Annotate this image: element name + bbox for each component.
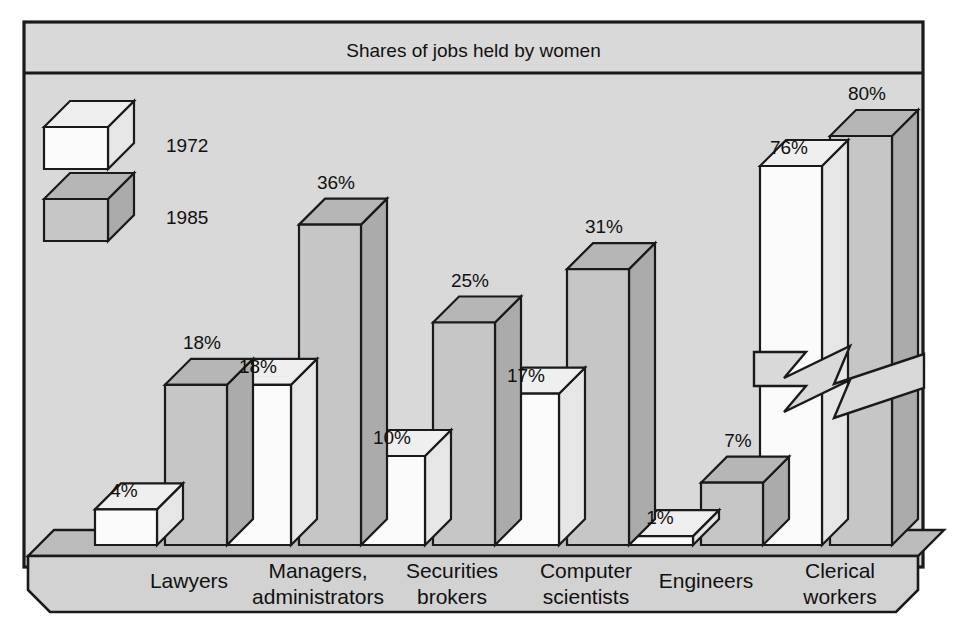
value-label-1985-1: 36%	[317, 172, 355, 193]
value-label-1972-1: 18%	[239, 356, 277, 377]
category-label-3: Computer	[540, 559, 632, 582]
legend-label-1972: 1972	[166, 135, 208, 156]
category-label-2: Securities	[406, 559, 498, 582]
value-label-1972-4: 1%	[646, 507, 674, 528]
bar-side-face	[361, 199, 387, 545]
legend-cube-front	[44, 127, 108, 169]
category-label-0: Lawyers	[150, 569, 228, 592]
bar-front-face	[631, 536, 693, 545]
category-label-1: Managers,	[268, 559, 367, 582]
category-label-5: workers	[802, 585, 877, 608]
value-label-1985-2: 25%	[451, 270, 489, 291]
bar-1985-4	[701, 457, 789, 545]
figure-root: 76%80%1%7%17%31%10%25%18%36%4%18% Lawyer…	[0, 0, 966, 641]
bar-side-face	[822, 140, 848, 545]
category-label-1: administrators	[252, 585, 384, 608]
bar-side-face	[892, 110, 918, 545]
value-label-1972-0: 4%	[110, 480, 138, 501]
chart-title-text: Shares of jobs held by women	[346, 40, 601, 61]
legend-label-1985: 1985	[166, 207, 208, 228]
value-label-1985-0: 18%	[183, 332, 221, 353]
category-label-2: brokers	[417, 585, 487, 608]
value-label-1985-3: 31%	[585, 216, 623, 237]
legend-cube-front	[44, 199, 108, 241]
bar-side-face	[559, 368, 585, 545]
value-label-1985-5: 80%	[848, 83, 886, 104]
value-label-1972-5: 76%	[770, 137, 808, 158]
bar-front-face	[95, 509, 157, 545]
bar-side-face	[227, 359, 253, 545]
category-label-3: scientists	[543, 585, 629, 608]
value-label-1985-4: 7%	[724, 430, 752, 451]
bar-side-face	[495, 297, 521, 546]
value-label-1972-2: 10%	[373, 427, 411, 448]
chart-title: Shares of jobs held by women	[346, 40, 601, 61]
bar-chart: 76%80%1%7%17%31%10%25%18%36%4%18% Lawyer…	[0, 0, 966, 641]
category-label-4: Engineers	[659, 569, 754, 592]
bar-side-face	[291, 359, 317, 545]
value-label-1972-3: 17%	[507, 365, 545, 386]
bar-side-face	[629, 243, 655, 545]
category-label-5: Clerical	[805, 559, 875, 582]
